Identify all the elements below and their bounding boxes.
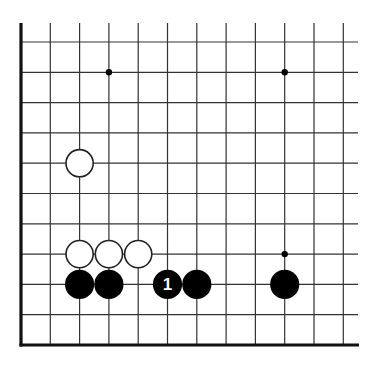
white-stone-icon (66, 241, 93, 268)
black-stone (270, 270, 299, 299)
black-stone-icon (94, 270, 123, 299)
white-stone-icon (66, 150, 93, 177)
white-stone-icon (95, 241, 122, 268)
black-stone: 1 (153, 270, 182, 299)
black-stone-icon (270, 270, 299, 299)
go-board: 1 (0, 0, 381, 365)
star-point-icon (106, 69, 112, 75)
board-edges (20, 23, 360, 347)
black-stone-icon (65, 270, 94, 299)
white-stone (125, 241, 152, 268)
black-stone (94, 270, 123, 299)
black-stone (65, 270, 94, 299)
black-stone (182, 270, 211, 299)
white-stone (95, 241, 122, 268)
move-number-label: 1 (163, 275, 172, 294)
white-stone-icon (125, 241, 152, 268)
white-stone (66, 150, 93, 177)
star-point-icon (282, 69, 288, 75)
star-point-icon (282, 251, 288, 257)
white-stone (66, 241, 93, 268)
black-stone-icon (182, 270, 211, 299)
